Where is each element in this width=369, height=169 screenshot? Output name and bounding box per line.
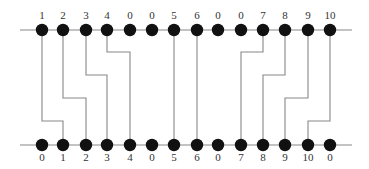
top-node-label: 0 [215, 9, 221, 21]
top-node-dot [212, 24, 224, 36]
top-node-label: 6 [194, 9, 200, 21]
top-node-dot [57, 24, 69, 36]
bottom-node-dot [101, 139, 113, 151]
bottom-node-label: 0 [327, 151, 333, 163]
top-node-label: 0 [127, 9, 133, 21]
connection-wire-2 [63, 30, 86, 145]
connection-wire-8 [263, 30, 285, 145]
top-node-dot [324, 24, 336, 36]
bottom-node-label: 0 [149, 151, 155, 163]
top-node-dot [146, 24, 158, 36]
top-node-dot [124, 24, 136, 36]
top-node-label: 1 [39, 9, 45, 21]
top-labels: 123400560078910 [39, 9, 336, 21]
top-node-label: 3 [83, 9, 89, 21]
bottom-node-dot [324, 139, 336, 151]
top-node-dot [302, 24, 314, 36]
bottom-node-dot [146, 139, 158, 151]
bottom-node-label: 2 [83, 151, 89, 163]
top-node-label: 2 [60, 9, 66, 21]
bottom-node-label: 1 [60, 151, 66, 163]
bottom-node-label: 8 [260, 151, 266, 163]
top-node-label: 4 [104, 9, 110, 21]
bottom-node-dot [257, 139, 269, 151]
connection-wires [42, 30, 330, 145]
bottom-node-label: 4 [127, 151, 133, 163]
bottom-node-label: 6 [194, 151, 200, 163]
top-node-dot [36, 24, 48, 36]
bottom-node-label: 9 [282, 151, 288, 163]
bottom-node-label: 3 [104, 151, 110, 163]
bottom-node-dot [279, 139, 291, 151]
top-node-label: 5 [171, 9, 177, 21]
top-node-label: 0 [238, 9, 244, 21]
bottom-node-label: 5 [171, 151, 177, 163]
top-node-dot [257, 24, 269, 36]
bottom-node-dot [36, 139, 48, 151]
bottom-node-dot [302, 139, 314, 151]
bottom-node-dot [235, 139, 247, 151]
top-node-label: 8 [282, 9, 288, 21]
top-node-dot [80, 24, 92, 36]
top-node-dot [168, 24, 180, 36]
bottom-node-label: 7 [238, 151, 244, 163]
top-node-dot [235, 24, 247, 36]
bottom-labels: 012340560789100 [39, 151, 333, 163]
bottom-node-dot [80, 139, 92, 151]
top-node-label: 0 [149, 9, 155, 21]
connection-wire-7 [241, 30, 263, 145]
connection-wire-1 [42, 30, 63, 145]
connection-wire-10 [308, 30, 330, 145]
bottom-node-dot [191, 139, 203, 151]
bottom-node-dot [124, 139, 136, 151]
bottom-node-dot [57, 139, 69, 151]
top-node-dot [101, 24, 113, 36]
connection-wire-9 [285, 30, 308, 145]
bottom-node-dot [168, 139, 180, 151]
bottom-node-dot [212, 139, 224, 151]
top-node-dot [279, 24, 291, 36]
top-node-dot [191, 24, 203, 36]
bottom-node-label: 0 [215, 151, 221, 163]
connection-wire-4 [107, 30, 130, 145]
top-node-label: 10 [325, 9, 337, 21]
compaction-diagram: 123400560078910 012340560789100 [0, 0, 369, 169]
top-node-label: 9 [305, 9, 311, 21]
bottom-node-label: 10 [303, 151, 315, 163]
top-node-label: 7 [260, 9, 266, 21]
connection-wire-3 [86, 30, 107, 145]
bottom-node-label: 0 [39, 151, 45, 163]
